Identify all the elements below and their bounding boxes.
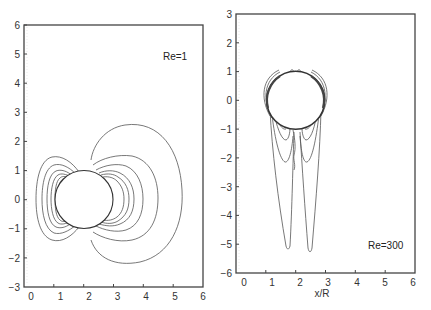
right-ytick-label: −4 bbox=[221, 210, 233, 221]
left-ytick-label: 6 bbox=[14, 20, 20, 31]
x-axis-label: x/R bbox=[315, 288, 330, 299]
right-ytick-label: −5 bbox=[221, 239, 233, 250]
right-xtick-label: 5 bbox=[382, 277, 388, 288]
left-ytick-label: 4 bbox=[14, 78, 20, 89]
right-xtick-label: 6 bbox=[410, 277, 416, 288]
left-xtick-label: 5 bbox=[172, 291, 178, 302]
left-xtick-label: 4 bbox=[143, 291, 149, 302]
right-xtick-label: 0 bbox=[241, 277, 247, 288]
right-axes-frame bbox=[236, 14, 415, 273]
right-ytick-label: −6 bbox=[221, 268, 233, 279]
right-xtick-label: 2 bbox=[297, 277, 303, 288]
left-axes-frame bbox=[24, 25, 203, 287]
right-ytick-label: −3 bbox=[221, 182, 233, 193]
wake-left-outer bbox=[270, 110, 294, 249]
left-xtick-label: 3 bbox=[115, 291, 121, 302]
right-ytick-label: 2 bbox=[226, 38, 232, 49]
right-ytick-label: 0 bbox=[226, 95, 232, 106]
right-plot: 3 2 1 0 −1 −2 −3 −4 −5 −6 0 1 2 3 4 5 6 … bbox=[221, 9, 417, 299]
right-ytick-label: 3 bbox=[226, 9, 232, 20]
left-xtick-label: 6 bbox=[200, 291, 206, 302]
wake-right-outer bbox=[300, 110, 321, 252]
left-xtick-label: 1 bbox=[58, 291, 64, 302]
left-ytick-label: −2 bbox=[9, 253, 21, 264]
right-ytick-label: −2 bbox=[221, 153, 233, 164]
left-ytick-label: −3 bbox=[9, 282, 21, 293]
right-xtick-label: 1 bbox=[269, 277, 275, 288]
left-xtick-label: 0 bbox=[28, 291, 34, 302]
left-xtick-label: 2 bbox=[86, 291, 92, 302]
left-ytick-label: 1 bbox=[14, 165, 20, 176]
left-ytick-label: 2 bbox=[14, 136, 20, 147]
right-ytick-label: 1 bbox=[226, 66, 232, 77]
reynolds-label-left: Re=1 bbox=[163, 51, 188, 62]
left-ytick-label: 3 bbox=[14, 107, 20, 118]
left-plot: 6 5 4 3 2 1 0 −1 −2 −3 0 1 2 3 4 5 6 Re=… bbox=[9, 20, 207, 302]
right-xtick-label: 3 bbox=[325, 277, 331, 288]
right-ytick-label: −1 bbox=[221, 124, 233, 135]
left-ytick-label: 5 bbox=[14, 49, 20, 60]
figure: 6 5 4 3 2 1 0 −1 −2 −3 0 1 2 3 4 5 6 Re=… bbox=[0, 0, 431, 310]
right-xtick-label: 4 bbox=[354, 277, 360, 288]
left-ytick-label: 0 bbox=[14, 194, 20, 205]
sphere-left bbox=[55, 171, 113, 229]
left-ytick-label: −1 bbox=[9, 223, 21, 234]
reynolds-label-right: Re=300 bbox=[368, 240, 404, 251]
